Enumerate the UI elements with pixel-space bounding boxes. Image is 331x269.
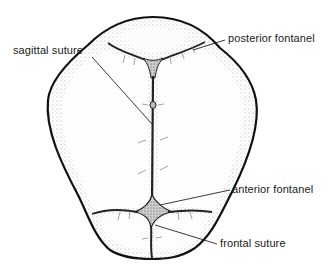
sagittal-node	[150, 102, 156, 109]
sagittal-suture-line	[152, 76, 153, 205]
label-anterior-fontanel: anterior fontanel	[232, 183, 313, 195]
label-posterior-fontanel: posterior fontanel	[228, 32, 315, 44]
frontal-suture-line	[151, 226, 152, 258]
label-sagittal-suture: sagittal suture	[13, 44, 83, 56]
label-frontal-suture: frontal suture	[220, 237, 286, 249]
